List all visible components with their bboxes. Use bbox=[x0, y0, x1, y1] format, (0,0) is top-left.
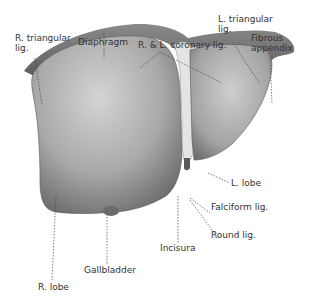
label-l-triangular-lig: L. triangular lig. bbox=[218, 14, 273, 34]
label-falciform-lig: Falciform lig. bbox=[211, 202, 268, 212]
liver-diagram: R. triangular lig. Diaphragm R. & L. cor… bbox=[0, 0, 312, 301]
label-line-2: lig. bbox=[15, 43, 71, 53]
label-r-lobe: R. lobe bbox=[38, 282, 69, 292]
label-line-1: Fibrous bbox=[251, 33, 293, 43]
left-lobe bbox=[190, 44, 272, 160]
round-ligament bbox=[184, 158, 190, 170]
label-incisura: Incisura bbox=[160, 243, 195, 253]
label-line-1: L. triangular bbox=[218, 14, 273, 24]
right-lobe bbox=[32, 36, 182, 214]
label-coronary-lig: R. & L. coronary lig. bbox=[138, 40, 226, 50]
label-line-2: appendix bbox=[251, 43, 293, 53]
label-gallbladder: Gallbladder bbox=[84, 265, 136, 275]
label-r-triangular-lig: R. triangular lig. bbox=[15, 33, 71, 53]
gallbladder-shape bbox=[103, 206, 119, 216]
label-fibrous-appendix: Fibrous appendix bbox=[251, 33, 293, 53]
label-l-lobe: L. lobe bbox=[231, 178, 261, 188]
label-diaphragm: Diaphragm bbox=[78, 37, 128, 47]
label-line-1: R. triangular bbox=[15, 33, 71, 43]
label-round-lig: Round lig. bbox=[211, 230, 256, 240]
